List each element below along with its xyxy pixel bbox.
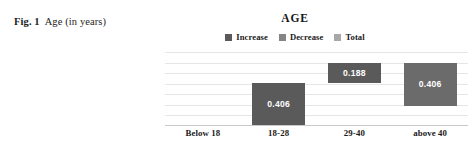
bar-value-label: 0.406 bbox=[419, 80, 442, 89]
legend-item-increase[interactable]: Increase bbox=[225, 32, 268, 42]
chart-plot-area: 0.4060.1880.406 bbox=[165, 52, 468, 126]
category-label: 29-40 bbox=[317, 128, 393, 138]
figure-caption-text: Age (in years) bbox=[45, 16, 106, 27]
chart-title: AGE bbox=[165, 12, 425, 24]
legend-swatch-icon bbox=[279, 34, 286, 41]
legend-label: Total bbox=[345, 32, 364, 42]
legend-item-decrease[interactable]: Decrease bbox=[279, 32, 324, 42]
gridline bbox=[165, 115, 468, 116]
category-label: above 40 bbox=[392, 128, 468, 138]
figure-number: Fig. 1 bbox=[14, 16, 40, 27]
bar[interactable]: 0.406 bbox=[252, 83, 305, 126]
legend-swatch-icon bbox=[334, 34, 341, 41]
legend-swatch-icon bbox=[225, 34, 232, 41]
legend-item-total[interactable]: Total bbox=[334, 32, 364, 42]
legend-label: Increase bbox=[236, 32, 268, 42]
bar-value-label: 0.188 bbox=[343, 69, 366, 78]
category-label: 18-28 bbox=[241, 128, 317, 138]
chart-legend: IncreaseDecreaseTotal bbox=[165, 32, 425, 42]
legend-label: Decrease bbox=[290, 32, 324, 42]
bar[interactable]: 0.406 bbox=[404, 63, 457, 106]
age-waterfall-chart: AGE IncreaseDecreaseTotal 0.4060.1880.40… bbox=[165, 8, 468, 148]
axis-baseline bbox=[165, 125, 468, 126]
gridline bbox=[165, 52, 468, 53]
bar[interactable]: 0.188 bbox=[328, 63, 381, 83]
category-label: Below 18 bbox=[165, 128, 241, 138]
category-axis: Below 1818-2829-40above 40 bbox=[165, 128, 468, 144]
figure-caption: Fig. 1Age (in years) bbox=[14, 16, 106, 27]
bar-value-label: 0.406 bbox=[267, 100, 290, 109]
